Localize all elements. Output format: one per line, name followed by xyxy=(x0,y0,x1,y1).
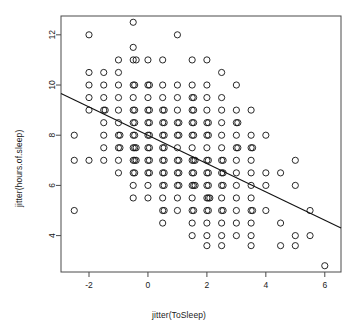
data-point xyxy=(174,182,180,188)
data-point xyxy=(204,182,210,188)
data-point xyxy=(174,170,180,176)
data-point xyxy=(145,82,151,88)
data-point xyxy=(233,170,239,176)
data-point xyxy=(205,195,211,201)
data-point xyxy=(161,120,167,126)
data-point xyxy=(132,82,138,88)
x-tick-label: -2 xyxy=(85,280,93,290)
data-point xyxy=(101,132,107,138)
data-point xyxy=(161,207,167,213)
data-point xyxy=(219,145,225,151)
data-point xyxy=(130,182,136,188)
data-point xyxy=(146,107,152,113)
y-tick-label: 10 xyxy=(47,80,57,90)
data-point xyxy=(292,243,298,249)
data-point xyxy=(204,145,210,151)
data-point xyxy=(235,145,241,151)
data-point xyxy=(174,120,180,126)
x-tick-label: 0 xyxy=(146,280,151,290)
data-point xyxy=(174,157,180,163)
data-point xyxy=(161,170,167,176)
data-point xyxy=(189,170,195,176)
data-point xyxy=(160,195,166,201)
data-point xyxy=(248,170,254,176)
data-points xyxy=(71,19,328,269)
regression-line xyxy=(61,94,341,229)
data-point xyxy=(248,195,254,201)
x-tick-label: 2 xyxy=(205,280,210,290)
data-point xyxy=(115,94,121,100)
data-point xyxy=(204,94,210,100)
data-point xyxy=(146,157,152,163)
data-point xyxy=(115,145,121,151)
data-point xyxy=(219,157,225,163)
data-point xyxy=(115,57,121,63)
data-point xyxy=(130,195,136,201)
data-point xyxy=(130,107,136,113)
data-point xyxy=(174,132,180,138)
data-point xyxy=(220,182,226,188)
data-point xyxy=(146,145,152,151)
data-point xyxy=(248,207,254,213)
data-point xyxy=(146,170,152,176)
data-point xyxy=(115,132,121,138)
data-point xyxy=(248,157,254,163)
data-point xyxy=(176,170,182,176)
data-point xyxy=(145,120,151,126)
data-point xyxy=(189,132,195,138)
y-tick-label: 6 xyxy=(47,183,57,188)
data-point xyxy=(132,132,138,138)
data-point xyxy=(174,195,180,201)
data-point xyxy=(130,170,136,176)
data-point xyxy=(277,243,283,249)
data-point xyxy=(189,207,195,213)
data-point xyxy=(102,107,108,113)
x-tick-label: 6 xyxy=(322,280,327,290)
data-point xyxy=(115,170,121,176)
data-point xyxy=(248,145,254,151)
data-point xyxy=(174,94,180,100)
data-point xyxy=(191,207,197,213)
data-point xyxy=(160,57,166,63)
data-point xyxy=(145,107,151,113)
data-point xyxy=(130,94,136,100)
data-point xyxy=(204,120,210,126)
data-point xyxy=(101,69,107,75)
data-point xyxy=(233,220,239,226)
data-point xyxy=(145,94,151,100)
data-point xyxy=(204,233,210,239)
data-point xyxy=(189,107,195,113)
data-point xyxy=(132,107,138,113)
data-point xyxy=(161,145,167,151)
data-point xyxy=(145,57,151,63)
data-point xyxy=(146,120,152,126)
data-point xyxy=(233,82,239,88)
data-point xyxy=(219,94,225,100)
scatter-plot-figure: -202464681012 jitter(ToSleep) jitter(hou… xyxy=(0,0,358,329)
data-point xyxy=(130,19,136,25)
data-point xyxy=(174,82,180,88)
data-point xyxy=(86,69,92,75)
data-point xyxy=(174,32,180,38)
data-point xyxy=(101,145,107,151)
data-point xyxy=(146,82,152,88)
data-point xyxy=(322,263,328,269)
data-point xyxy=(160,107,166,113)
data-point xyxy=(248,243,254,249)
data-point xyxy=(176,157,182,163)
data-point xyxy=(233,120,239,126)
trendline xyxy=(61,94,341,229)
data-point xyxy=(117,132,123,138)
data-point xyxy=(204,220,210,226)
data-point xyxy=(86,82,92,88)
data-point xyxy=(160,145,166,151)
data-point xyxy=(235,120,241,126)
data-point xyxy=(176,132,182,138)
data-point xyxy=(233,157,239,163)
data-point xyxy=(86,32,92,38)
data-point xyxy=(130,44,136,50)
y-tick-label: 4 xyxy=(47,233,57,238)
data-point xyxy=(160,182,166,188)
data-point xyxy=(205,182,211,188)
data-point xyxy=(248,132,254,138)
